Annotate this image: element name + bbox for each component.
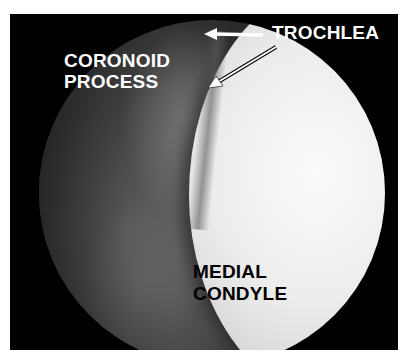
label-medial-line1: MEDIAL	[193, 262, 267, 281]
label-coronoid-line1: CORONOID	[64, 51, 170, 70]
label-trochlea: TROCHLEA	[272, 23, 379, 42]
label-coronoid-line2: PROCESS	[64, 72, 158, 91]
label-medial-line2: CONDYLE	[193, 284, 287, 303]
